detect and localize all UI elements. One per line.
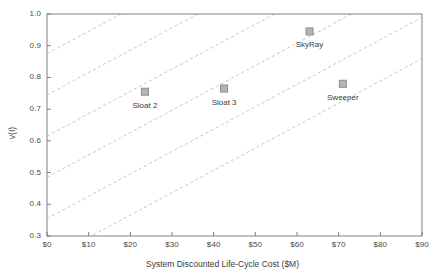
data-markers [141,28,346,95]
y-tick-label-2: 0.5 [11,168,41,177]
x-tick-label-4: $40 [194,240,234,249]
iso-value-lines [47,0,422,260]
x-tick-label-8: $80 [360,240,400,249]
y-tick-label-5: 0.8 [11,72,41,81]
y-tick-label-6: 0.9 [11,41,41,50]
x-tick-label-2: $20 [110,240,150,249]
point-label-skyray: SkyRay [270,40,350,49]
data-marker-sloat-3 [221,85,228,92]
y-tick-label-7: 1.0 [11,9,41,18]
iso-value-line-5 [47,0,422,54]
iso-value-line-0 [47,59,422,260]
x-tick-label-3: $30 [152,240,192,249]
y-tick-label-0: 0.3 [11,231,41,240]
x-tick-label-9: $90 [402,240,442,249]
iso-value-line-1 [47,17,422,218]
y-tick-label-4: 0.7 [11,104,41,113]
point-label-sloat-2: Sloat 2 [105,101,185,110]
y-axis-title: v(I) [7,113,17,153]
x-axis-title: System Discounted Life-Cycle Cost ($M) [0,259,445,269]
plot-canvas [0,0,445,280]
x-tick-label-0: $0 [27,240,67,249]
data-marker-skyray [306,28,313,35]
data-marker-sloat-2 [141,88,148,95]
point-label-sweeper: Sweeper [303,93,383,102]
point-label-sloat-3: Sloat 3 [184,98,264,107]
x-tick-label-6: $60 [277,240,317,249]
scatter-chart: $0$10$20$30$40$50$60$70$80$900.30.40.50.… [0,0,445,280]
data-marker-sweeper [339,80,346,87]
x-tick-label-7: $70 [319,240,359,249]
x-tick-label-5: $50 [235,240,275,249]
iso-value-line-3 [47,0,422,136]
x-tick-label-1: $10 [69,240,109,249]
y-tick-label-1: 0.4 [11,199,41,208]
iso-value-line-6 [47,0,422,12]
